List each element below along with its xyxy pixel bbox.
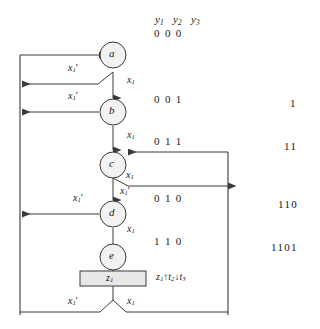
header-y3: y3 — [191, 14, 200, 26]
sequence-label-11: 11 — [284, 141, 297, 152]
edge-label-a-to-b: x1 — [127, 75, 135, 86]
edge-label-a-reset: x1′ — [68, 63, 78, 74]
edge-label-d-reset: x1′ — [73, 193, 83, 204]
state-label-e: e — [109, 250, 114, 261]
sequence-label-1101: 1101 — [271, 242, 298, 253]
state-label-c: c — [109, 158, 114, 169]
edge-label-c-branch-right: x1 — [126, 170, 134, 181]
state-bits-a: 0 0 0 — [154, 28, 183, 39]
edge-label-e-exit-right: x1 — [127, 296, 135, 307]
sequence-label-1: 1 — [290, 98, 297, 109]
state-label-d: d — [109, 207, 115, 218]
edge-e-exit-left — [20, 300, 113, 312]
state-bits-d: 0 1 0 — [154, 193, 183, 204]
state-label-b: b — [109, 105, 115, 116]
state-label-a: a — [109, 48, 115, 59]
output-annotation: z1↑t2↓t3 — [156, 272, 186, 283]
edge-label-e-exit-left: x1′ — [68, 296, 78, 307]
edge-label-b-to-c: x1 — [127, 130, 135, 141]
state-bits-e: 1 1 0 — [154, 236, 183, 247]
edge-label-c-to-d: x1′ — [120, 186, 130, 197]
header-y2: y2 — [173, 14, 182, 26]
state-bits-b: 0 0 1 — [154, 94, 183, 105]
output-box-label: z1 — [106, 273, 113, 284]
state-bits-c: 0 1 1 — [154, 136, 183, 147]
edge-label-b-reset: x1′ — [68, 91, 78, 102]
edge-label-d-to-e: x1 — [127, 224, 135, 235]
header-y1: y1 — [155, 14, 164, 26]
sequence-label-110: 110 — [278, 199, 298, 210]
